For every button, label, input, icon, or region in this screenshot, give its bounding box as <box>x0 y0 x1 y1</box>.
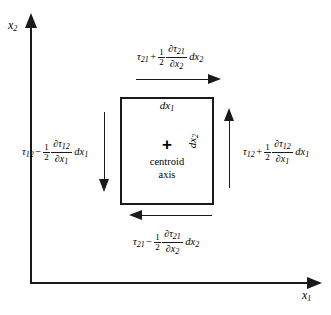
top-stress-differential: dx <box>189 51 199 62</box>
right-stress-partial-den: ∂x1 <box>272 152 293 167</box>
bottom-stress-symbol-sub: 21 <box>137 240 145 249</box>
centroid-axis-label: centroid axis <box>120 155 214 181</box>
left-stress-differential-sub: 1 <box>84 150 88 159</box>
top-stress-partial-den-base: ∂x <box>170 58 179 69</box>
bottom-stress-arrow-shaft <box>136 215 212 216</box>
top-stress-label: τ21+12∂τ21∂x2dx2 <box>137 43 203 72</box>
bottom-stress-label: τ21−12∂τ21∂x2dx2 <box>133 228 199 257</box>
bottom-stress-partial-num-base: ∂τ <box>164 228 173 239</box>
top-stress-differential-sub: 2 <box>199 55 203 64</box>
bottom-stress-differential: dx <box>185 236 195 247</box>
left-stress-partial-num: ∂τ12 <box>51 138 72 152</box>
horizontal-axis-label-sub: 1 <box>307 294 311 303</box>
top-stress-symbol-sub: 21 <box>141 55 149 64</box>
left-stress-partial-derivative: ∂τ12∂x1 <box>51 138 72 167</box>
left-stress-symbol-sub: 12 <box>26 150 34 159</box>
top-stress-coefficient: 12 <box>158 48 165 68</box>
top-stress-arrow-shaft <box>136 79 212 80</box>
right-stress-partial-derivative: ∂τ12∂x1 <box>272 138 293 167</box>
left-stress-partial-den-sub: 1 <box>64 157 68 166</box>
right-stress-differential-sub: 1 <box>305 150 309 159</box>
bottom-stress-partial-den: ∂x2 <box>162 242 183 257</box>
centroid-axis-label-line1: centroid <box>120 155 214 168</box>
element-width-label-sub: 1 <box>170 104 174 113</box>
left-stress-partial-den: ∂x1 <box>51 152 72 167</box>
left-stress-partial-num-base: ∂τ <box>53 138 62 149</box>
element-width-label-base: dx <box>160 99 170 111</box>
element-width-label: dx1 <box>120 99 214 113</box>
bottom-stress-partial-den-base: ∂x <box>166 243 175 254</box>
left-stress-operator: − <box>34 146 43 157</box>
centroid-plus-icon: + <box>120 136 214 153</box>
right-stress-label: τ12+12∂τ12∂x1dx1 <box>243 138 309 167</box>
vertical-axis-label-sub: 2 <box>13 24 17 33</box>
right-stress-coefficient: 12 <box>264 143 271 163</box>
right-stress-partial-den-base: ∂x <box>276 153 285 164</box>
right-stress-arrow-up-icon <box>224 108 234 121</box>
top-stress-partial-den-sub: 2 <box>179 62 183 71</box>
left-stress-partial-num-sub: 12 <box>62 142 70 151</box>
left-stress-arrow-shaft <box>104 112 105 182</box>
bottom-stress-partial-num: ∂τ21 <box>162 228 183 242</box>
vertical-axis-label: x2 <box>8 18 17 33</box>
right-stress-partial-num-sub: 12 <box>283 142 291 151</box>
bottom-stress-partial-num-sub: 21 <box>173 232 181 241</box>
left-stress-arrow-down-icon <box>99 179 109 192</box>
bottom-stress-coefficient-num: 1 <box>154 233 161 242</box>
right-stress-partial-num-base: ∂τ <box>274 138 283 149</box>
top-stress-partial-num-sub: 21 <box>177 47 185 56</box>
top-stress-partial-num: ∂τ21 <box>166 43 187 57</box>
bottom-stress-partial-den-sub: 2 <box>175 247 179 256</box>
centroid-axis-label-line2: axis <box>120 168 214 181</box>
vertical-axis-arrow-up-icon <box>25 13 37 28</box>
left-stress-differential: dx <box>74 146 84 157</box>
bottom-stress-operator: − <box>145 236 154 247</box>
left-stress-label: τ12−12∂τ12∂x1dx1 <box>22 138 88 167</box>
top-stress-operator: + <box>149 51 158 62</box>
top-stress-partial-num-base: ∂τ <box>168 43 177 54</box>
horizontal-axis-label: x1 <box>302 288 311 303</box>
right-stress-partial-den-sub: 1 <box>285 157 289 166</box>
left-stress-coefficient-den: 2 <box>43 152 50 162</box>
bottom-stress-coefficient: 12 <box>154 233 161 253</box>
left-stress-partial-den-base: ∂x <box>55 153 64 164</box>
right-stress-coefficient-den: 2 <box>264 152 271 162</box>
bottom-stress-partial-derivative: ∂τ21∂x2 <box>162 228 183 257</box>
right-stress-partial-num: ∂τ12 <box>272 138 293 152</box>
horizontal-axis-line <box>30 282 311 284</box>
left-stress-coefficient: 12 <box>43 143 50 163</box>
right-stress-coefficient-num: 1 <box>264 143 271 152</box>
right-stress-differential: dx <box>295 146 305 157</box>
top-stress-coefficient-num: 1 <box>158 48 165 57</box>
bottom-stress-differential-sub: 2 <box>195 240 199 249</box>
bottom-stress-coefficient-den: 2 <box>154 242 161 252</box>
top-stress-partial-derivative: ∂τ21∂x2 <box>166 43 187 72</box>
top-stress-coefficient-den: 2 <box>158 57 165 67</box>
top-stress-arrow-right-icon <box>208 74 221 84</box>
top-stress-partial-den: ∂x2 <box>166 57 187 72</box>
right-stress-symbol-sub: 12 <box>247 150 255 159</box>
left-stress-coefficient-num: 1 <box>43 143 50 152</box>
stress-element-diagram: x2 x1 dx1 dx2 + centroid axis τ21+12∂τ21… <box>0 0 331 315</box>
right-stress-arrow-shaft <box>229 118 230 188</box>
right-stress-operator: + <box>255 146 264 157</box>
bottom-stress-arrow-left-icon <box>129 210 142 220</box>
